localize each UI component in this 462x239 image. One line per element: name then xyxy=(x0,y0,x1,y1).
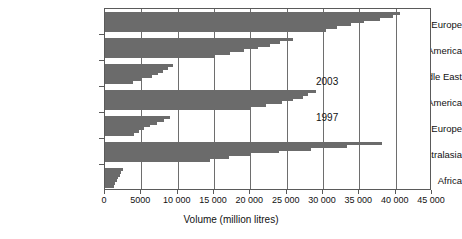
plot-area xyxy=(104,8,431,190)
x-axis-tick xyxy=(358,190,359,194)
bar xyxy=(105,107,250,110)
x-axis-tick xyxy=(213,190,214,194)
bar-chart: West Europe North America Middle East La… xyxy=(0,0,462,239)
bar xyxy=(105,81,133,84)
bar xyxy=(105,29,326,32)
x-axis-tick-label: 25 000 xyxy=(272,195,300,206)
bar xyxy=(105,133,134,136)
annotation-1997: 1997 xyxy=(316,112,338,123)
x-axis-tick-label: 40 000 xyxy=(381,195,409,206)
x-axis-tick xyxy=(140,190,141,194)
y-axis-tick xyxy=(99,138,104,139)
y-axis-tick xyxy=(99,164,104,165)
bar xyxy=(105,185,114,188)
bar-slot xyxy=(105,81,430,84)
x-axis-tick-label: 5000 xyxy=(130,195,150,206)
annotation-2003: 2003 xyxy=(316,76,338,87)
x-axis-tick-label: 20 000 xyxy=(236,195,264,206)
x-axis-tick-label: 45 000 xyxy=(417,195,445,206)
bar-slot xyxy=(105,159,430,162)
x-axis-tick xyxy=(104,190,105,194)
y-axis-tick xyxy=(99,34,104,35)
x-axis-tick xyxy=(177,190,178,194)
x-axis-tick xyxy=(431,190,432,194)
bar xyxy=(105,55,215,58)
x-axis-tick xyxy=(249,190,250,194)
x-axis-tick xyxy=(286,190,287,194)
x-axis-tick-label: 30 000 xyxy=(308,195,336,206)
x-axis-tick-label: 35 000 xyxy=(345,195,373,206)
bar-slot xyxy=(105,133,430,136)
x-axis-tick-label: 0 xyxy=(101,195,106,206)
x-axis-tick-label: 15 000 xyxy=(199,195,227,206)
y-axis-tick xyxy=(99,112,104,113)
y-axis-tick xyxy=(99,86,104,87)
x-axis-tick-label: 10 000 xyxy=(163,195,191,206)
x-axis-tick xyxy=(395,190,396,194)
bar-slot xyxy=(105,55,430,58)
bar-slot xyxy=(105,107,430,110)
x-axis-tick xyxy=(322,190,323,194)
x-axis-title: Volume (million litres) xyxy=(0,214,462,225)
bar-slot xyxy=(105,29,430,32)
bar xyxy=(105,159,210,162)
bar-slot xyxy=(105,185,430,188)
y-axis-tick xyxy=(99,60,104,61)
